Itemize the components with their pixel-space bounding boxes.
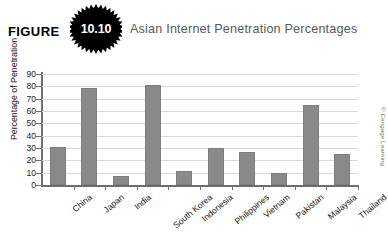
y-tick-label: 0 bbox=[14, 181, 36, 190]
bar bbox=[334, 154, 350, 185]
bar bbox=[176, 171, 192, 185]
figure-header: FIGURE 10.10 Asian Internet Penetration … bbox=[0, 0, 388, 58]
gridline bbox=[42, 74, 358, 75]
bar bbox=[208, 148, 224, 185]
bar bbox=[145, 85, 161, 185]
y-tick-label: 30 bbox=[14, 144, 36, 153]
x-tick-mark bbox=[200, 186, 201, 190]
y-tick-label: 40 bbox=[14, 132, 36, 141]
figure-number-text: 10.10 bbox=[70, 3, 122, 55]
bar bbox=[113, 176, 129, 185]
bar bbox=[50, 147, 66, 185]
plot-area bbox=[42, 74, 358, 185]
y-tick-label: 90 bbox=[14, 70, 36, 79]
x-tick-mark bbox=[232, 186, 233, 190]
x-tick-mark bbox=[326, 186, 327, 190]
y-tick-label: 10 bbox=[14, 169, 36, 178]
x-tick-label: Malaysia bbox=[326, 192, 358, 221]
bar bbox=[239, 152, 255, 185]
bar bbox=[271, 173, 287, 185]
x-tick-mark bbox=[263, 186, 264, 190]
y-tick-label: 50 bbox=[14, 119, 36, 128]
x-tick-mark bbox=[168, 186, 169, 190]
y-tick-label: 60 bbox=[14, 107, 36, 116]
y-tick-label: 70 bbox=[14, 95, 36, 104]
figure-title: Asian Internet Penetration Percentages bbox=[130, 22, 357, 36]
x-tick-label: Pakistan bbox=[294, 192, 326, 221]
x-tick-label: Thailand bbox=[357, 192, 388, 221]
x-tick-mark bbox=[74, 186, 75, 190]
x-tick-mark bbox=[295, 186, 296, 190]
x-tick-mark bbox=[358, 186, 359, 190]
bar bbox=[303, 105, 319, 185]
figure-number-badge: 10.10 bbox=[70, 3, 122, 55]
copyright-credit: © Cengage Learning bbox=[380, 107, 387, 166]
y-tick-label: 20 bbox=[14, 156, 36, 165]
x-tick-label: China bbox=[70, 192, 94, 214]
x-tick-mark bbox=[105, 186, 106, 190]
y-tick-label: 80 bbox=[14, 82, 36, 91]
x-tick-label: India bbox=[132, 192, 153, 212]
bar bbox=[81, 88, 97, 185]
bar-chart: Percentage of Penetration 90807060504030… bbox=[0, 58, 388, 245]
x-tick-label: Japan bbox=[102, 192, 126, 215]
x-tick-mark bbox=[137, 186, 138, 190]
